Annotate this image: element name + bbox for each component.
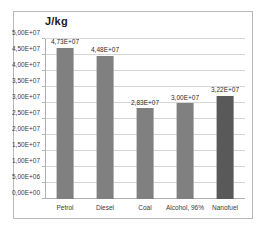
x-axis-category-label: Alcohol, 96% (166, 205, 204, 212)
y-axis-tick-label: 2,00E+07 (12, 125, 40, 132)
y-axis-tick-label: 5,00E+06 (12, 173, 40, 180)
y-axis-tick-label: 4,00E+07 (12, 61, 40, 68)
plot-area: 0,00E+005,00E+061,00E+071,50E+072,00E+07… (45, 39, 245, 199)
bar-group: 2,83E+07Coal (125, 39, 165, 199)
y-axis-tick-label: 0,00E+00 (12, 189, 40, 196)
y-axis-tick-label: 3,50E+07 (12, 77, 40, 84)
bar-value-label: 3,00E+07 (171, 95, 199, 102)
bar-value-label: 4,48E+07 (91, 47, 119, 54)
chart-container: J/kg 0,00E+005,00E+061,00E+071,50E+072,0… (13, 11, 253, 219)
bar-value-label: 3,22E+07 (211, 87, 239, 94)
bar-value-label: 4,73E+07 (51, 39, 79, 46)
bar-group: 4,48E+07Diesel (85, 39, 125, 199)
bar[interactable] (97, 56, 114, 199)
bar[interactable] (217, 96, 234, 199)
bar-group: 3,00E+07Alcohol, 96% (165, 39, 205, 199)
y-axis-tick-label: 3,00E+07 (12, 93, 40, 100)
bar[interactable] (177, 103, 194, 199)
y-axis-tick-label: 1,50E+07 (12, 141, 40, 148)
bar-group: 3,22E+07Nanofuel (205, 39, 245, 199)
bar[interactable] (57, 48, 74, 199)
bar-group: 4,73E+07Petrol (45, 39, 85, 199)
bar[interactable] (137, 108, 154, 199)
x-axis-category-label: Petrol (57, 205, 74, 212)
y-axis-tick-label: 4,50E+07 (12, 45, 40, 52)
y-axis-tick-label: 1,00E+07 (12, 157, 40, 164)
x-axis-category-label: Nanofuel (212, 205, 238, 212)
x-axis-category-label: Diesel (96, 205, 114, 212)
y-axis-tick-label: 2,50E+07 (12, 109, 40, 116)
bar-value-label: 2,83E+07 (131, 100, 159, 107)
chart-title: J/kg (45, 15, 68, 27)
y-axis-tick-label: 5,00E+07 (12, 29, 40, 36)
x-axis-category-label: Coal (138, 205, 151, 212)
